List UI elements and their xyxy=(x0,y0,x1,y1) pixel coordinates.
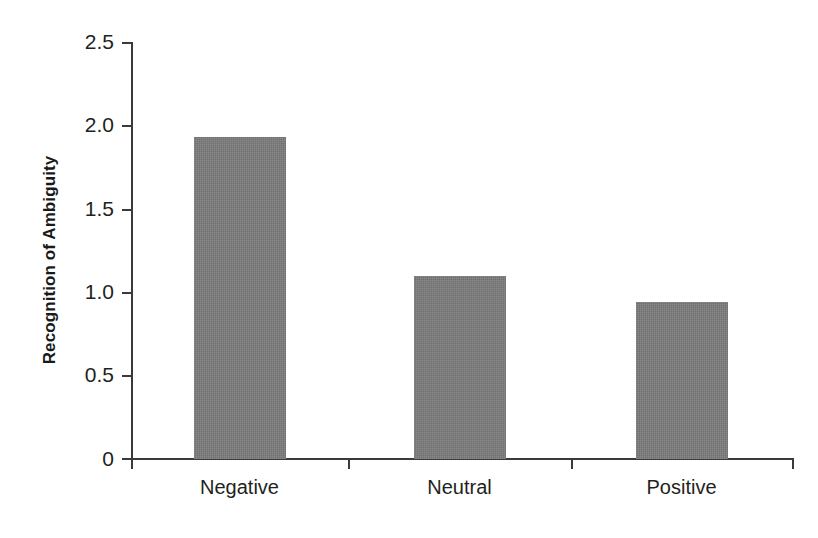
x-axis-label-neutral: Neutral xyxy=(348,476,571,499)
y-tick-label-1: 0.5 xyxy=(4,363,114,387)
y-axis-line xyxy=(131,42,133,460)
bar-chart: Recognition of Ambiguity 0 0.5 1.0 1.5 2… xyxy=(0,0,818,538)
y-tick-mark-2 xyxy=(122,292,131,294)
bar-neutral xyxy=(414,276,506,459)
y-tick-label-0: 0 xyxy=(4,447,114,471)
y-tick-label-4: 2.0 xyxy=(4,113,114,137)
y-tick-mark-0 xyxy=(122,458,131,460)
x-tick-mark-1 xyxy=(348,459,350,469)
y-tick-mark-5 xyxy=(122,42,131,44)
x-tick-mark-3 xyxy=(792,459,794,469)
y-tick-label-2: 1.0 xyxy=(4,280,114,304)
y-tick-mark-4 xyxy=(122,125,131,127)
y-tick-label-3: 1.5 xyxy=(4,197,114,221)
y-tick-label-5: 2.5 xyxy=(4,30,114,54)
x-tick-mark-2 xyxy=(571,459,573,469)
bar-negative xyxy=(194,137,286,459)
x-tick-mark-0 xyxy=(131,459,133,469)
y-tick-mark-1 xyxy=(122,375,131,377)
y-tick-mark-3 xyxy=(122,209,131,211)
x-axis-label-negative: Negative xyxy=(131,476,348,499)
x-axis-label-positive: Positive xyxy=(571,476,792,499)
bar-positive xyxy=(636,302,728,459)
